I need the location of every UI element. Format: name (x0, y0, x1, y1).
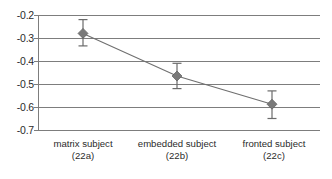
y-axis-tick-label-2: -0.4 (0, 56, 34, 67)
x-axis-tick-label-0-primary: matrix subject (33, 138, 133, 150)
data-point-marker-1 (172, 71, 182, 81)
x-axis-tick-label-1-primary: embedded subject (121, 138, 233, 150)
x-axis-tick-label-0-secondary: (22a) (33, 150, 133, 162)
data-point-marker-0 (78, 28, 88, 38)
y-axis-tick-label-5: -0.7 (0, 125, 34, 136)
x-axis-tick-label-group-1: embedded subject (22b) (121, 138, 233, 162)
y-axis-tick-labels: -0.2 -0.3 -0.4 -0.5 -0.6 -0.7 (0, 0, 34, 179)
x-axis-tick-labels: matrix subject (22a) embedded subject (2… (38, 136, 320, 176)
x-axis-tick-label-2-primary: fronted subject (224, 138, 324, 150)
y-axis-tick-label-4: -0.6 (0, 102, 34, 113)
x-axis-tick-label-group-0: matrix subject (22a) (33, 138, 133, 162)
x-axis-tick-label-1-secondary: (22b) (121, 150, 233, 162)
x-axis-tick-label-group-2: fronted subject (22c) (224, 138, 324, 162)
y-axis-tick-label-3: -0.5 (0, 79, 34, 90)
y-axis-tick-label-1: -0.3 (0, 33, 34, 44)
x-axis-tick-label-2-secondary: (22c) (224, 150, 324, 162)
chart-container: -0.2 -0.3 -0.4 -0.5 -0.6 -0.7 matrix sub… (0, 0, 332, 179)
y-axis-tick-label-0: -0.2 (0, 10, 34, 21)
